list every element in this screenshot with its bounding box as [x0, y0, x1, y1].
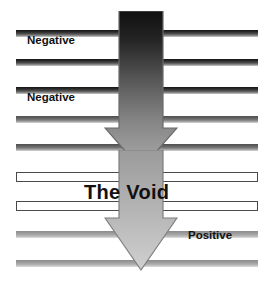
diagram-canvas: Negative Negative The Void Positive — [0, 0, 270, 284]
label-negative-upper: Negative — [27, 34, 75, 46]
downward-arrow-lower-icon — [104, 150, 178, 272]
label-positive: Positive — [188, 229, 232, 241]
label-negative-lower: Negative — [27, 91, 75, 103]
downward-arrow-upper-icon — [104, 11, 178, 171]
label-the-void: The Void — [84, 181, 169, 204]
